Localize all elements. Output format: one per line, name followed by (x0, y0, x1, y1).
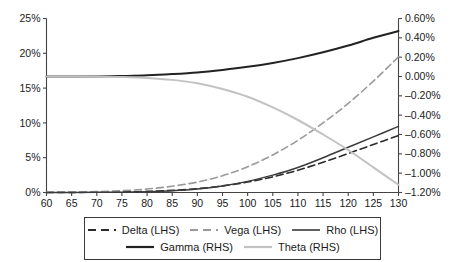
legend-label-theta: Theta (RHS) (278, 241, 340, 253)
legend-swatch-theta-icon (243, 242, 273, 252)
x-axis-tick-label: 115 (315, 197, 332, 209)
right-axis: –1.20%–1.00%–0.80%–0.60%–0.40%–0.20%0.00… (399, 12, 441, 198)
left-axis-tick-label: 10% (19, 117, 40, 129)
legend-swatch-vega-icon (189, 225, 219, 235)
series-line-gamma (47, 31, 399, 76)
x-axis-tick-label: 130 (390, 197, 408, 209)
series-lines (47, 31, 399, 192)
legend-entry-rho[interactable]: Rho (LHS) (291, 224, 378, 236)
legend-entry-theta[interactable]: Theta (RHS) (243, 241, 340, 253)
x-axis-tick-label: 95 (217, 197, 229, 209)
x-axis-tick-label: 70 (91, 197, 103, 209)
legend-label-delta: Delta (LHS) (122, 224, 179, 236)
x-axis-tick-label: 105 (264, 197, 282, 209)
left-axis-tick-label: 15% (19, 82, 40, 94)
left-axis-tick-label: 5% (25, 151, 40, 163)
legend-label-vega: Vega (LHS) (224, 224, 281, 236)
series-line-delta (47, 135, 399, 192)
x-axis-tick-label: 85 (166, 197, 178, 209)
x-axis-tick-label: 100 (239, 197, 257, 209)
chart-legend: Delta (LHS)Vega (LHS)Rho (LHS) Gamma (RH… (84, 217, 381, 260)
x-axis-tick-label: 60 (41, 197, 53, 209)
x-axis-tick-label: 90 (192, 197, 204, 209)
legend-swatch-delta-icon (87, 225, 117, 235)
right-axis-tick-label: –1.00% (405, 167, 441, 179)
x-axis-tick-label: 110 (290, 197, 307, 209)
left-axis-tick-label: 20% (19, 47, 40, 59)
legend-entry-vega[interactable]: Vega (LHS) (189, 224, 281, 236)
x-axis-tick-label: 120 (339, 197, 357, 209)
x-axis-tick-label: 125 (365, 197, 383, 209)
right-axis-tick-label: –0.60% (405, 128, 441, 140)
right-axis-tick-label: –1.20% (405, 186, 441, 198)
left-axis: 0%5%10%15%20%25% (19, 12, 46, 198)
series-line-rho (47, 126, 399, 192)
legend-swatch-gamma-icon (125, 242, 155, 252)
left-axis-tick-label: 0% (25, 186, 40, 198)
greeks-chart-figure: 0%5%10%15%20%25% –1.20%–1.00%–0.80%–0.60… (0, 0, 465, 262)
legend-row-primary: Delta (LHS)Vega (LHS)Rho (LHS) (89, 221, 376, 238)
legend-entry-gamma[interactable]: Gamma (RHS) (125, 241, 233, 253)
legend-swatch-rho-icon (291, 225, 321, 235)
right-axis-tick-label: –0.40% (405, 109, 441, 121)
x-axis-tick-label: 75 (116, 197, 128, 209)
x-axis: 6065707580859095100105110115120125130 (41, 193, 408, 209)
legend-row-secondary: Gamma (RHS)Theta (RHS) (89, 238, 376, 255)
series-line-theta (47, 76, 399, 184)
x-axis-tick-label: 65 (66, 197, 78, 209)
legend-label-rho: Rho (LHS) (326, 224, 378, 236)
right-axis-tick-label: 0.60% (405, 12, 435, 24)
x-axis-tick-label: 80 (141, 197, 153, 209)
right-axis-tick-label: –0.20% (405, 89, 441, 101)
right-axis-tick-label: 0.00% (405, 70, 435, 82)
legend-entry-delta[interactable]: Delta (LHS) (87, 224, 179, 236)
right-axis-tick-label: –0.80% (405, 147, 441, 159)
right-axis-tick-label: 0.40% (405, 31, 435, 43)
legend-label-gamma: Gamma (RHS) (160, 241, 233, 253)
right-axis-tick-label: 0.20% (405, 51, 435, 63)
left-axis-tick-label: 25% (19, 12, 40, 24)
